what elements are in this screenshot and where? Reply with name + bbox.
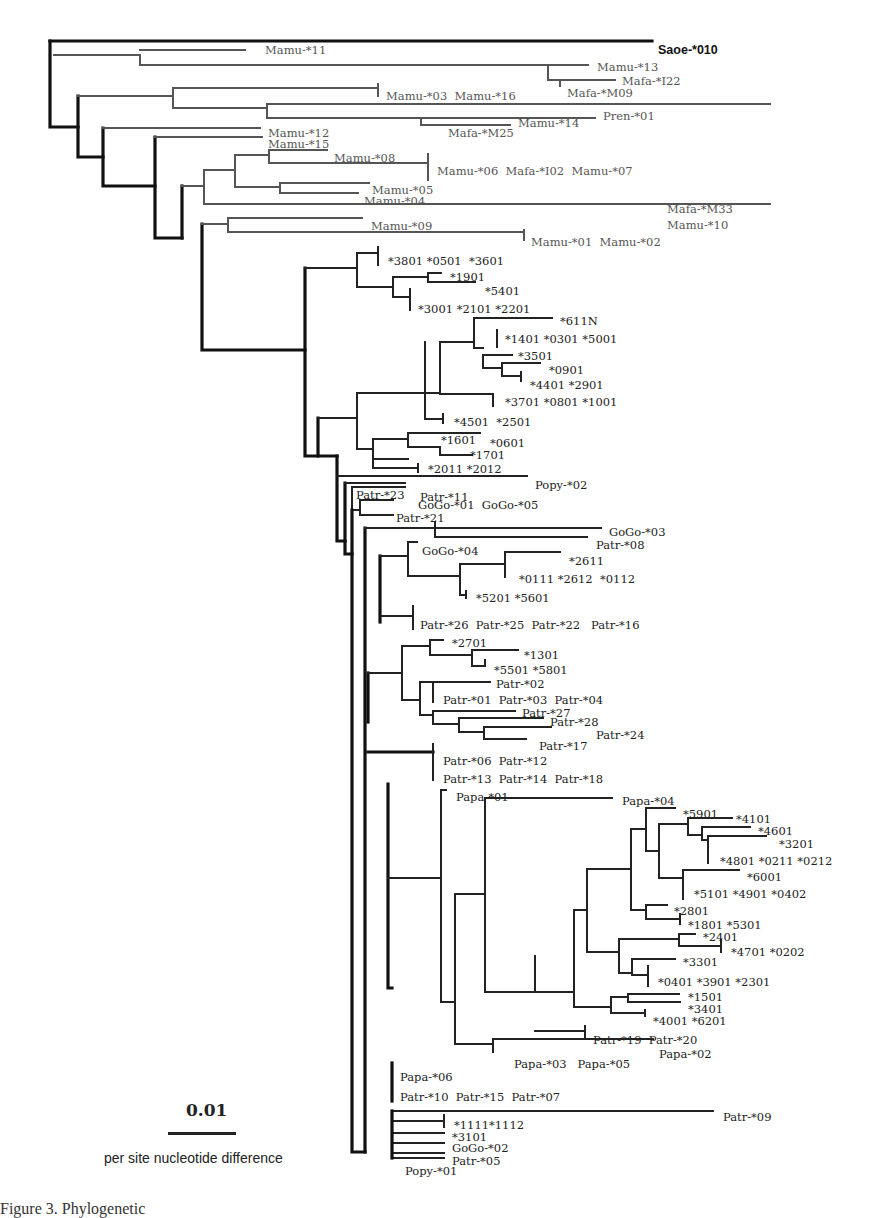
taxon-label-patr06_12: Patr-*06 Patr-*12: [443, 754, 547, 768]
taxon-label-patr28: Patr-*28: [550, 715, 598, 729]
taxon-label-a3001: *3001 *2101 *2201: [418, 302, 530, 316]
taxon-label-a5201: *5201 *5601: [476, 591, 550, 605]
tree-branch: [103, 128, 155, 186]
tree-branch: [474, 318, 483, 348]
tree-branch: [435, 522, 587, 537]
tree-branch: [433, 711, 459, 724]
taxon-label-popy02: Popy-*02: [535, 478, 587, 492]
tree-branch: [619, 939, 632, 973]
taxon-label-gogo02: GoGo-*02: [452, 1141, 509, 1155]
taxon-label-a5101: *5101 *4901 *0402: [694, 887, 806, 901]
taxon-label-a5501: *5501 *5801: [494, 663, 568, 677]
tree-branch: [502, 363, 521, 376]
tree-branch: [440, 447, 472, 455]
taxon-label-patr08: Patr-*08: [596, 538, 644, 552]
taxon-label-gogo04: GoGo-*04: [422, 544, 479, 558]
tree-branch: [646, 808, 659, 851]
taxon-label-patr21: Patr-*21: [396, 511, 444, 525]
taxon-label-a3801: *3801 *0501 *3601: [388, 254, 504, 268]
taxon-label-papa01: Papa-*01: [456, 790, 509, 804]
taxon-label-a2701: *2701: [452, 636, 487, 650]
taxon-label-a4601: *4601: [758, 824, 793, 838]
taxon-label-a0901: *0901: [549, 363, 584, 377]
taxon-label-a3201: *3201: [779, 837, 814, 851]
tree-branch: [155, 137, 182, 238]
tree-branch: [202, 224, 305, 350]
scale-value: 0.01: [186, 1100, 227, 1120]
taxon-label-mamu01_02: Mamu-*01 Mamu-*02: [531, 235, 661, 249]
taxon-label-mamu10: Mamu-*10: [667, 218, 728, 232]
taxon-label-patr09: Patr-*09: [723, 1110, 771, 1124]
tree-branch: [388, 784, 392, 988]
taxon-label-patr24: Patr-*24: [596, 728, 644, 742]
taxon-label-patr13_14_18: Patr-*13 Patr-*14 Patr-*18: [443, 772, 603, 786]
taxon-label-mafam25: Mafa-*M25: [448, 126, 514, 140]
taxon-label-a1701: *1701: [470, 448, 505, 462]
taxon-label-mamu11: Mamu-*11: [265, 43, 326, 57]
taxon-label-a5401: *5401: [485, 284, 520, 298]
taxon-label-a4501: *4501 *2501: [454, 415, 531, 429]
tree-branch: [425, 393, 443, 419]
taxon-label-a3501: *3501: [518, 349, 553, 363]
taxon-label-patr23: Patr-*23: [356, 488, 404, 502]
tree-branch: [484, 727, 526, 739]
taxon-label-papa03_05: Papa-*03 Papa-*05: [514, 1057, 630, 1071]
tree-branch: [50, 41, 78, 127]
taxon-label-a4401: *4401 *2901: [530, 378, 604, 392]
taxon-label-patr10_15_07: Patr-*10 Patr-*15 Patr-*07: [400, 1090, 560, 1104]
tree-branch: [235, 155, 280, 187]
taxon-label-a0401: *0401 *3901 *2301: [658, 975, 770, 989]
taxon-label-mamu15: Mamu-*15: [268, 137, 329, 151]
taxon-label-mafam09: Mafa-*M09: [567, 86, 633, 100]
tree-branch: [78, 96, 103, 157]
taxon-label-papa02: Papa-*02: [659, 1047, 712, 1061]
taxon-label-gogo01_05: GoGo-*01 GoGo-*05: [418, 498, 538, 512]
taxon-label-a6001: *6001: [747, 870, 782, 884]
tree-branch: [352, 510, 365, 1152]
taxon-label-a5901: *5901: [683, 807, 718, 821]
taxon-label-patr19_20: Patr-*19 Patr-*20: [593, 1033, 697, 1047]
taxon-label-a611n: *611N: [560, 314, 598, 328]
taxon-label-mamu09: Mamu-*09: [371, 219, 432, 233]
tree-branch: [421, 118, 510, 125]
taxon-label-a4001: *4001 *6201: [653, 1014, 727, 1028]
tree-branch: [420, 682, 433, 715]
taxon-label-mamu13: Mamu-*13: [597, 60, 658, 74]
tree-branch: [659, 824, 683, 878]
taxon-label-pren01: Pren-*01: [603, 109, 655, 123]
taxon-label-a1401: *1401 *0301 *5001: [505, 332, 617, 346]
tree-branch: [459, 718, 484, 732]
taxon-label-gogo03: GoGo-*03: [609, 525, 666, 539]
taxon-label-a0111: *0111 *2612 *0112: [519, 572, 635, 586]
tree-branch: [628, 994, 680, 1002]
taxon-label-popy01: Popy-*01: [405, 1164, 457, 1178]
taxon-label-patr02: Patr-*02: [496, 677, 544, 691]
tree-branch: [357, 393, 373, 449]
taxon-label-patr05: Patr-*05: [452, 1154, 500, 1168]
taxon-labels: Mamu-*11Saoe-*010Mamu-*13Mafa-*I22Mamu-*…: [265, 43, 832, 1178]
taxon-label-patr01_03_04: Patr-*01 Patr-*03 Patr-*04: [443, 693, 603, 707]
taxon-label-a4701: *4701 *0202: [731, 945, 805, 959]
tree-branch: [373, 439, 408, 459]
taxon-label-patr26_25_22_16: Patr-*26 Patr-*25 Patr-*22 Patr-*16: [420, 618, 639, 632]
tree-branch: [402, 646, 420, 700]
tree-branch: [425, 342, 440, 393]
taxon-label-a1901: *1901: [450, 270, 485, 284]
tree-branch: [318, 418, 337, 456]
taxon-label-mamu06_i02_07: Mamu-*06 Mafa-*I02 Mamu-*07: [437, 164, 633, 178]
tree-branch: [393, 277, 410, 297]
tree-branch: [280, 183, 358, 193]
taxon-label-a4801: *4801 *0211 *0212: [720, 854, 832, 868]
taxon-label-a3701: *3701 *0801 *1001: [505, 395, 617, 409]
figure-caption: Figure 3. Phylogenetic: [0, 1200, 145, 1218]
taxon-label-mamu08: Mamu-*08: [334, 151, 395, 165]
taxon-label-papa06: Papa-*06: [400, 1070, 453, 1084]
tree-branch: [574, 910, 611, 1007]
tree-branch: [535, 956, 574, 992]
tree-branch: [485, 798, 535, 992]
scale-bar: [168, 1132, 236, 1135]
tree-branch: [472, 650, 485, 666]
tree-branch: [408, 433, 440, 447]
taxon-label-mamu03_16: Mamu-*03 Mamu-*16: [386, 89, 516, 103]
taxon-label-a1601: *1601: [441, 433, 476, 447]
